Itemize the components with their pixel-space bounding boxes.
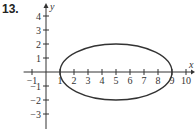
x-axis-label: x	[188, 59, 194, 70]
x-tick-label: 4	[100, 75, 105, 86]
x-tick-label: 3	[86, 75, 91, 86]
x-tick-label: 10	[181, 75, 191, 86]
y-axis-arrow-icon	[44, 3, 49, 8]
y-tick-label: −1	[30, 81, 41, 92]
ellipse-graph: yx−1123456789104321−1−2−3	[0, 0, 195, 129]
y-tick-label: 1	[36, 53, 41, 64]
x-axis-arrow-icon	[191, 70, 195, 75]
x-tick-label: 2	[72, 75, 77, 86]
tick-labels: yx−1123456789104321−1−2−3	[27, 1, 194, 120]
x-tick-label: 5	[114, 75, 119, 86]
y-tick-label: −2	[30, 95, 41, 106]
y-tick-label: 3	[36, 25, 41, 36]
y-tick-label: 4	[36, 11, 41, 22]
axes	[24, 3, 195, 129]
y-tick-label: 2	[36, 39, 41, 50]
x-tick-label: 8	[156, 75, 161, 86]
x-tick-label: 6	[128, 75, 133, 86]
y-axis-label: y	[49, 1, 55, 12]
x-tick-label: 7	[142, 75, 147, 86]
y-tick-label: −3	[30, 109, 41, 120]
